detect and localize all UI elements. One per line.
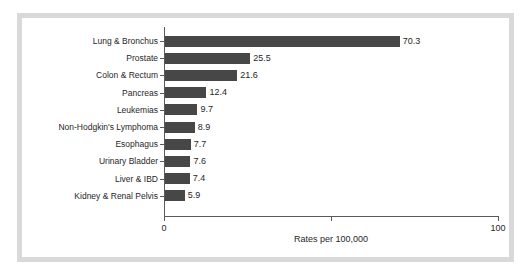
bar-value-label: 25.5 [253,53,271,64]
y-axis-tick [160,161,164,162]
plot-area: Lung & Bronchus70.3Prostate25.5Colon & R… [0,0,532,277]
bar [165,36,400,47]
bar-value-label: 21.6 [240,70,258,81]
bar [165,70,237,81]
bar-value-label: 70.3 [403,36,421,47]
category-label-row: Liver & IBD [0,174,158,184]
x-axis-tick [498,216,499,221]
category-label: Urinary Bladder [0,156,158,166]
y-axis-tick [160,144,164,145]
category-label-row: Non-Hodgkin's Lymphoma [0,122,158,132]
category-label: Non-Hodgkin's Lymphoma [0,122,158,132]
category-label: Liver & IBD [0,174,158,184]
bar-value-label: 7.6 [193,156,206,167]
bar [165,104,197,115]
x-axis-title: Rates per 100,000 [164,234,498,244]
x-axis-tick [331,216,332,221]
y-axis-tick [160,58,164,59]
y-axis-tick [160,179,164,180]
bar-value-label: 5.9 [188,190,201,201]
category-label-row: Lung & Bronchus [0,36,158,46]
y-axis-tick [160,41,164,42]
bar-value-label: 12.4 [209,87,227,98]
y-axis-tick [160,196,164,197]
category-label: Esophagus [0,139,158,149]
x-axis-tick-label: 0 [161,223,166,233]
bar [165,156,190,167]
y-axis-tick [160,75,164,76]
y-axis-tick [160,93,164,94]
category-label-row: Urinary Bladder [0,156,158,166]
bar [165,190,185,201]
category-label-row: Prostate [0,53,158,63]
bar-value-label: 9.7 [200,104,213,115]
bar [165,139,191,150]
category-label: Kidney & Renal Pelvis [0,191,158,201]
bar-value-label: 8.9 [198,122,211,133]
category-label: Lung & Bronchus [0,36,158,46]
category-label-row: Leukemias [0,105,158,115]
bar [165,173,190,184]
y-axis-tick [160,110,164,111]
x-axis-tick [164,216,165,221]
category-label-row: Colon & Rectum [0,70,158,80]
category-label-row: Pancreas [0,88,158,98]
category-label: Colon & Rectum [0,70,158,80]
category-label: Prostate [0,53,158,63]
bar [165,122,195,133]
x-axis-tick-label: 100 [490,223,505,233]
y-axis-tick [160,127,164,128]
chart-page: Lung & Bronchus70.3Prostate25.5Colon & R… [0,0,532,277]
category-label-row: Kidney & Renal Pelvis [0,191,158,201]
bar-value-label: 7.7 [194,139,207,150]
bar [165,53,250,64]
category-label-row: Esophagus [0,139,158,149]
category-label: Pancreas [0,88,158,98]
bar [165,87,206,98]
bar-value-label: 7.4 [193,173,206,184]
category-label: Leukemias [0,105,158,115]
